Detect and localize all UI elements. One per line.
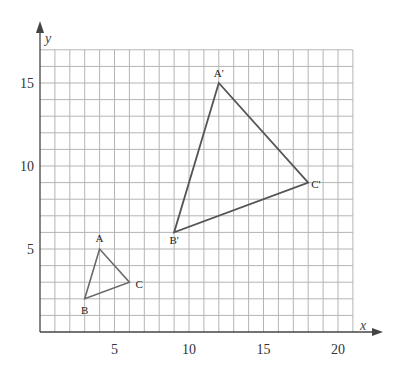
x-axis-label: x bbox=[359, 318, 367, 333]
x-tick-label: 10 bbox=[182, 342, 196, 357]
y-tick-label: 10 bbox=[20, 159, 34, 174]
x-tick-label: 20 bbox=[331, 342, 345, 357]
vertex-label: A bbox=[96, 232, 104, 244]
y-axis-arrow-icon bbox=[36, 21, 44, 33]
y-axis-label: y bbox=[43, 31, 52, 46]
y-tick-label: 5 bbox=[27, 242, 34, 257]
x-axis-arrow-icon bbox=[372, 328, 383, 336]
triangles: ABCA'B'C' bbox=[81, 67, 321, 316]
vertex-label: B' bbox=[169, 234, 178, 246]
x-tick-label: 5 bbox=[111, 342, 118, 357]
tick-labels: 510152051015 bbox=[20, 76, 345, 357]
triangle-shape bbox=[85, 249, 130, 299]
vertex-label: B bbox=[81, 304, 88, 316]
triangle-shape bbox=[174, 83, 308, 232]
vertex-label: C' bbox=[311, 178, 320, 190]
triangle-a-primeb-primec-prime: A'B'C' bbox=[169, 67, 320, 246]
vertex-label: A' bbox=[214, 67, 224, 79]
coordinate-diagram: x y 510152051015 ABCA'B'C' bbox=[0, 0, 396, 373]
vertex-label: C bbox=[135, 278, 142, 290]
x-tick-label: 15 bbox=[257, 342, 271, 357]
y-tick-label: 15 bbox=[20, 76, 34, 91]
triangle-abc: ABC bbox=[81, 232, 143, 316]
